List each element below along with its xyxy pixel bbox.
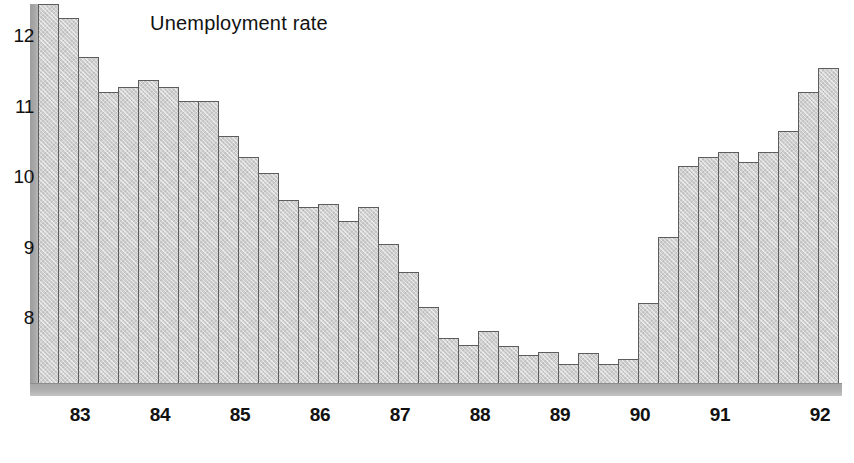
bar [738, 162, 759, 384]
bar [718, 152, 739, 383]
bar [338, 221, 359, 383]
bar [438, 338, 459, 383]
bar [238, 157, 259, 383]
bar [638, 303, 659, 384]
bar [518, 355, 539, 383]
unemployment-rate-chart: Unemployment rate 89101112 8384858687888… [0, 0, 854, 463]
bar [178, 101, 199, 383]
bar [38, 4, 59, 383]
bar [818, 68, 839, 383]
bar [198, 101, 219, 383]
bar [498, 346, 519, 383]
bar [258, 173, 279, 383]
bar [398, 272, 419, 383]
bar [658, 237, 679, 383]
x-tick-label-92: 92 [790, 404, 850, 426]
x-tick-label-84: 84 [130, 404, 190, 426]
y-tick-label-11: 11 [0, 97, 34, 116]
plot-area [38, 0, 838, 383]
x-tick-label-83: 83 [50, 404, 110, 426]
bar [78, 57, 99, 383]
bar [778, 131, 799, 383]
y-tick-label-12: 12 [0, 26, 34, 45]
x-tick-label-88: 88 [450, 404, 510, 426]
bar [698, 157, 719, 383]
bar [98, 92, 119, 383]
bar [558, 364, 579, 383]
bar [758, 152, 779, 383]
bar [138, 80, 159, 383]
x-tick-label-87: 87 [370, 404, 430, 426]
bar [678, 166, 699, 383]
bar [798, 92, 819, 383]
bar [218, 136, 239, 383]
bar [538, 352, 559, 383]
x-tick-label-91: 91 [690, 404, 750, 426]
bar [358, 207, 379, 383]
bar [598, 364, 619, 383]
bar [618, 359, 639, 383]
y-tick-label-8: 8 [0, 308, 34, 327]
bar [278, 200, 299, 383]
bar [458, 345, 479, 383]
bar [478, 331, 499, 383]
x-tick-label-86: 86 [290, 404, 350, 426]
bar [418, 307, 439, 383]
bar [378, 244, 399, 383]
x-tick-label-85: 85 [210, 404, 270, 426]
bar [318, 204, 339, 383]
x-tick-label-90: 90 [610, 404, 670, 426]
bar [58, 18, 79, 383]
x-tick-label-89: 89 [530, 404, 590, 426]
bar [118, 87, 139, 383]
x-axis-baseline [30, 383, 842, 396]
bar [298, 207, 319, 383]
bar [578, 353, 599, 383]
y-tick-label-9: 9 [0, 238, 34, 257]
y-tick-label-10: 10 [0, 167, 34, 186]
bar [158, 87, 179, 383]
